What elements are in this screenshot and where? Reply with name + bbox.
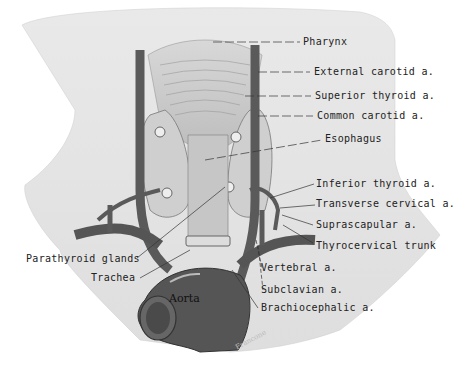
label-pharynx: Pharynx: [303, 36, 347, 47]
label-parathyroid-glands: Parathyroid glands: [26, 253, 140, 264]
label-subclavian: Subclavian a.: [261, 284, 343, 295]
label-superior-thyroid: Superior thyroid a.: [315, 90, 435, 101]
label-aorta: Aorta: [169, 292, 200, 305]
label-transverse-cervical: Transverse cervical a.: [316, 198, 455, 209]
label-trachea: Trachea: [91, 272, 135, 283]
label-suprascapular: Suprascapular a.: [316, 219, 417, 230]
label-common-carotid: Common carotid a.: [317, 110, 424, 121]
label-vertebral: Vertebral a.: [261, 262, 337, 273]
label-external-carotid: External carotid a.: [314, 66, 434, 77]
anatomy-illustration: Pharynx External carotid a. Superior thy…: [0, 0, 466, 368]
label-inferior-thyroid: Inferior thyroid a.: [316, 178, 436, 189]
label-thyrocervical-trunk: Thyrocervical trunk: [316, 240, 436, 251]
esophagus: [188, 135, 228, 240]
label-esophagus: Esophagus: [325, 133, 382, 144]
label-brachiocephalic: Brachiocephalic a.: [261, 302, 375, 313]
